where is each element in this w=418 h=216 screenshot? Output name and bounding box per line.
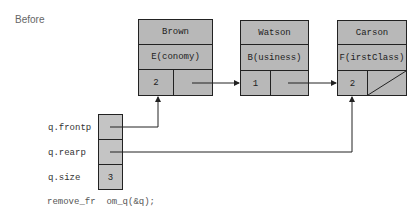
null-pointer-slash [368, 71, 406, 95]
diagram-stage: Before Brown E(conomy) 2 Watson B(usines… [0, 0, 418, 216]
arrow-frontp-to-brown [110, 97, 158, 127]
pointer-arrows [0, 0, 418, 216]
arrow-rearp-to-carson [110, 97, 352, 152]
